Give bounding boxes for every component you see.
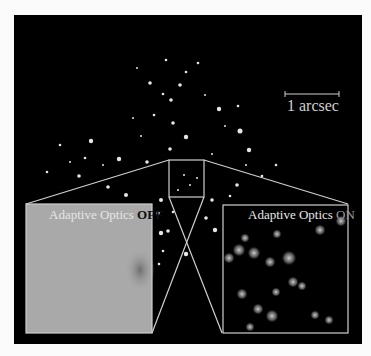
ao-on-state: ON xyxy=(336,207,355,222)
scale-bar-label: 1 arcsec xyxy=(287,97,339,115)
ao-off-state: OFF xyxy=(137,207,163,222)
magnified-off-panel xyxy=(26,204,155,333)
ao-off-label: Adaptive Optics OFF xyxy=(49,207,163,223)
ao-off-prefix: Adaptive Optics xyxy=(49,207,137,222)
star-cluster-image xyxy=(0,0,371,356)
ao-on-label: Adaptive Optics ON xyxy=(248,207,355,223)
ao-on-prefix: Adaptive Optics xyxy=(248,207,336,222)
magnified-on-panel xyxy=(223,205,348,333)
